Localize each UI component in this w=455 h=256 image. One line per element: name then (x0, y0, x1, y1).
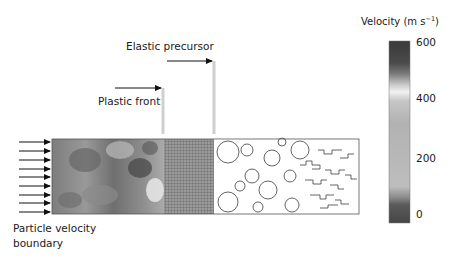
boundary-label-line2: boundary (13, 237, 63, 249)
colorbar-tick-400: 400 (416, 92, 436, 104)
colorbar-title: Velocity (m s−1) (361, 15, 439, 27)
diagram-canvas (0, 0, 455, 256)
elastic-zone (164, 139, 214, 214)
elastic-precursor-marker (167, 61, 214, 134)
simulation-domain (52, 138, 359, 214)
colorbar (389, 41, 410, 223)
boundary-label-line1: Particle velocity (13, 222, 96, 234)
elastic-precursor-label: Elastic precursor (126, 40, 214, 52)
colorbar-tick-200: 200 (416, 152, 436, 164)
boundary-arrows (19, 142, 50, 212)
colorbar-tick-600: 600 (416, 36, 436, 48)
plastic-front-label: Plastic front (98, 95, 160, 107)
colorbar-tick-0: 0 (416, 208, 423, 220)
